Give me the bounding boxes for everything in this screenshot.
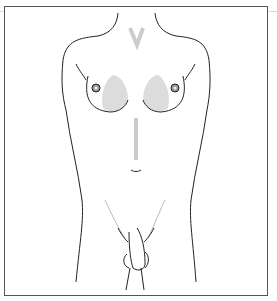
torso-illustration (0, 0, 277, 301)
